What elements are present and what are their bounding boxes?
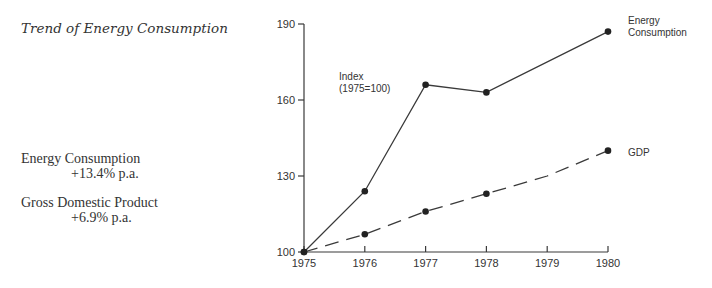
y-tick-label: 130: [277, 170, 295, 182]
legend-energy-line2: Consumption: [628, 27, 687, 38]
data-point-marker: [301, 249, 308, 256]
x-tick-label: 1977: [413, 257, 437, 269]
data-point-marker: [422, 82, 429, 89]
index-annotation-line1: Index: [339, 71, 363, 82]
data-point-marker: [483, 190, 490, 197]
x-tick-label: 1976: [353, 257, 377, 269]
line-chart: 100130160190197519761977197819791980 Ind…: [0, 0, 712, 288]
legend-gdp: GDP: [628, 147, 650, 158]
y-tick-label: 160: [277, 94, 295, 106]
chart-axes: 100130160190197519761977197819791980: [277, 18, 621, 269]
energy-consumption-line: [304, 32, 608, 252]
x-tick-label: 1975: [292, 257, 316, 269]
data-point-marker: [605, 147, 612, 154]
x-tick-label: 1979: [535, 257, 559, 269]
x-tick-label: 1980: [596, 257, 620, 269]
chart-series: [301, 28, 612, 255]
x-tick-label: 1978: [474, 257, 498, 269]
data-point-marker: [483, 89, 490, 96]
data-point-marker: [605, 28, 612, 35]
data-point-marker: [422, 208, 429, 215]
legend-energy-line1: Energy: [628, 15, 660, 26]
y-tick-label: 190: [277, 18, 295, 30]
index-annotation-line2: (1975=100): [339, 83, 390, 94]
data-point-marker: [362, 231, 369, 238]
gdp-line: [304, 151, 608, 252]
data-point-marker: [362, 188, 369, 195]
